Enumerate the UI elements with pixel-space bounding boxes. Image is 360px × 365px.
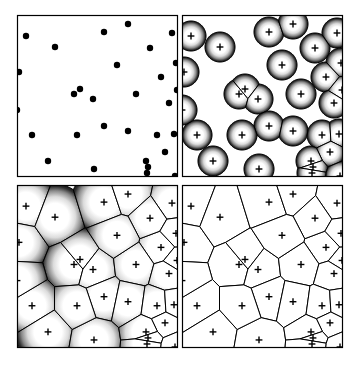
nucleation-site [162,149,168,155]
nucleation-site [16,69,22,75]
figure-container [0,0,360,365]
nucleation-site [125,128,131,134]
nucleation-site [133,91,139,97]
nucleation-site [158,74,164,80]
nucleation-site [173,60,179,66]
panel-background [17,15,178,177]
nucleation-site [166,100,172,106]
nucleation-site [154,132,160,138]
nucleation-site [101,29,107,35]
nucleation-site [143,158,149,164]
nucleation-site [45,158,51,164]
nucleation-site [114,62,120,68]
nucleation-site [52,44,58,50]
nucleation-site [171,131,177,137]
panel-b-early-growth [179,15,346,179]
nucleation-site [74,132,80,138]
nucleation-site [91,166,97,172]
nucleation-site [29,132,35,138]
figure-svg [0,0,360,365]
panel-d-full-tessellation [179,185,346,350]
nucleation-site [125,21,131,27]
nucleation-site [90,96,96,102]
nucleation-site [144,170,150,176]
panel-a-nucleation [14,15,180,179]
nucleation-site [71,91,77,97]
nucleation-site [101,123,107,129]
nucleation-site [23,33,29,39]
panel-c-impingement [14,185,181,350]
nucleation-site [77,86,83,92]
nucleation-site [147,45,153,51]
nucleation-site [169,30,175,36]
nucleation-site [145,164,151,170]
